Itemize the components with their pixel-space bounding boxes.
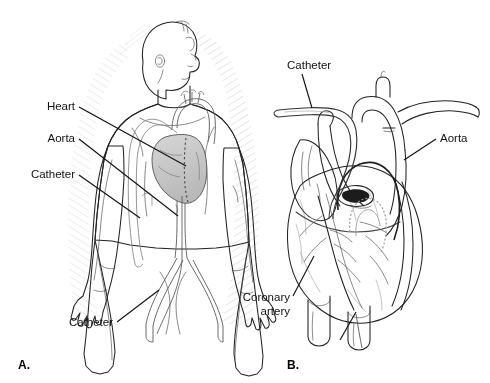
label-catheter-lower: Catheter (69, 316, 113, 328)
label-catheter-b: Catheter (287, 59, 331, 71)
label-aorta-b: Aorta (440, 132, 468, 144)
label-aorta: Aorta (48, 132, 76, 144)
label-coronary-artery-line1: Coronary (243, 291, 291, 303)
label-heart: Heart (47, 100, 76, 112)
label-catheter-upper: Catheter (31, 168, 75, 180)
panel-label-b: B. (287, 358, 299, 372)
label-coronary-artery-line2: artery (261, 305, 291, 317)
panel-label-a: A. (18, 358, 30, 372)
cardiac-catheterization-figure: Heart Aorta Catheter Catheter A. (0, 0, 490, 383)
